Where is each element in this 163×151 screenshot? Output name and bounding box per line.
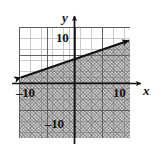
y-tick-label-positive: 10 xyxy=(56,31,68,44)
graph-figure: y x 10 –10 –10 10 xyxy=(0,0,163,151)
y-axis-label: y xyxy=(62,11,68,24)
x-tick-label-positive: 10 xyxy=(113,86,125,99)
y-tick-label-negative: –10 xyxy=(45,117,64,130)
x-axis-label: x xyxy=(143,84,150,97)
x-tick-label-negative: –10 xyxy=(16,86,35,99)
axes-and-line xyxy=(0,0,163,151)
